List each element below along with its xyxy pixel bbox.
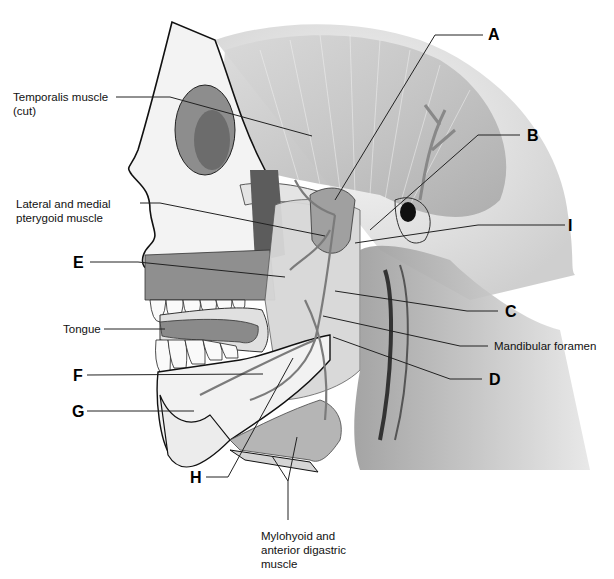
letter-label-C: C [505,304,517,320]
letter-label-E: E [73,255,84,271]
label-line: pterygoid muscle [16,211,111,225]
leader-E [90,262,285,277]
leader-I [355,225,565,243]
leader-C [335,291,498,311]
leader-A [335,35,483,200]
label-line: Temporalis muscle [13,90,108,104]
anatomy-diagram: Temporalis muscle (cut) Lateral and medi… [0,0,614,579]
label-line: Lateral and medial [16,197,111,211]
leader-D [333,337,482,379]
leader-B [370,135,520,230]
letter-label-D: D [489,372,501,388]
letter-label-G: G [72,404,84,420]
letter-label-F: F [73,368,83,384]
letter-label-I: I [568,218,572,234]
label-line: Mylohyoid and [261,529,346,543]
label-line: (cut) [13,104,108,118]
label-line: anterior digastric [261,543,346,557]
leader-F [87,374,263,375]
letter-label-B: B [527,128,539,144]
label-mylohyoid-digastric: Mylohyoid and anterior digastric muscle [261,529,346,571]
label-tongue: Tongue [63,322,101,336]
leader-mylohyoid [272,456,288,520]
label-temporalis-muscle: Temporalis muscle (cut) [13,90,108,118]
leader-mandibular-foramen [323,316,488,346]
label-line: muscle [261,557,346,571]
label-pterygoid-muscle: Lateral and medial pterygoid muscle [16,197,111,225]
leader-temporalis [116,97,312,136]
label-mandibular-foramen: Mandibular foramen [494,339,596,353]
leader-H [206,358,293,477]
leader-pterygoid [140,203,325,236]
letter-label-H: H [190,470,202,486]
leader-lines [0,0,614,579]
letter-label-A: A [488,27,500,43]
